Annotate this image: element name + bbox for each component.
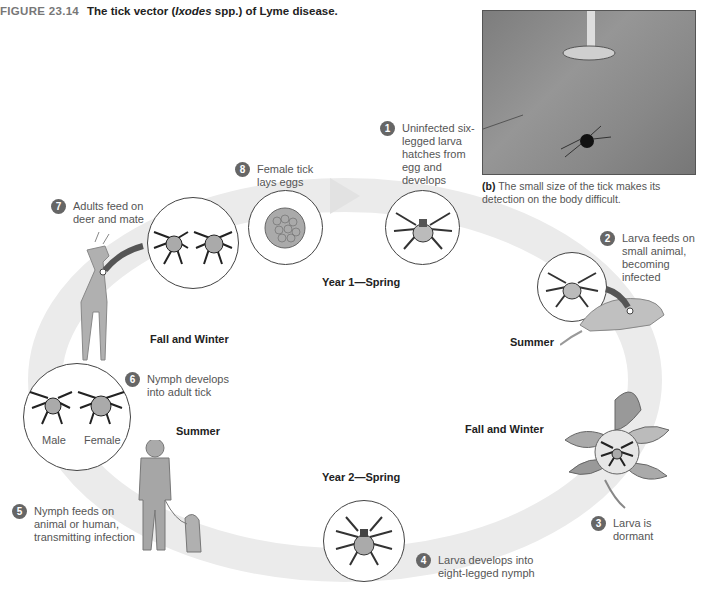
step-8: 8 Female tick lays eggs xyxy=(235,163,335,189)
step-4: 4 Larva develops into eight-legged nymph xyxy=(416,554,556,580)
tick-photo xyxy=(482,10,696,175)
mouse-icon xyxy=(560,275,670,355)
season-fall-winter-left: Fall and Winter xyxy=(150,333,229,345)
step-1: 1 Uninfected six-legged larva hatches fr… xyxy=(380,122,480,187)
eggs-circle xyxy=(248,190,323,265)
female-label: Female xyxy=(84,434,121,446)
male-label: Male xyxy=(42,434,66,446)
step-7: 7 Adults feed on deer and mate xyxy=(51,200,151,226)
season-year1-spring: Year 1—Spring xyxy=(322,276,400,288)
season-fall-winter-right: Fall and Winter xyxy=(465,423,544,435)
season-summer-left: Summer xyxy=(176,425,220,437)
egg-cluster-icon xyxy=(249,191,322,264)
nymph-circle xyxy=(323,500,405,582)
step-badge: 5 xyxy=(12,504,27,519)
step-badge: 8 xyxy=(235,162,250,177)
step-badge: 2 xyxy=(600,231,615,246)
larva-circle xyxy=(385,190,460,265)
step-badge: 4 xyxy=(416,553,431,568)
step-badge: 1 xyxy=(380,121,395,136)
male-female-ticks-icon xyxy=(24,364,130,444)
step-badge: 7 xyxy=(51,199,66,214)
adult-ticks-circle: Male Female xyxy=(23,363,131,471)
six-legged-larva-icon xyxy=(386,191,459,264)
tick-on-skin xyxy=(580,134,594,148)
mating-adult-ticks-icon xyxy=(148,198,238,288)
season-year2-spring: Year 2—Spring xyxy=(322,471,400,483)
eight-legged-nymph-icon xyxy=(324,501,404,581)
person-with-dog-icon xyxy=(135,440,215,560)
step-badge: 3 xyxy=(591,516,606,531)
step-6: 6 Nymph develops into adult tick xyxy=(125,373,235,399)
step-5: 5 Nymph feeds on animal or human, transm… xyxy=(12,505,142,544)
step-3: 3 Larva is dormant xyxy=(591,517,671,543)
leaves-icon xyxy=(545,380,685,510)
photo-caption: (b) The small size of the tick makes its… xyxy=(482,180,697,206)
season-summer-right: Summer xyxy=(510,336,554,348)
adults-feeding-circle xyxy=(147,197,239,289)
deer-icon xyxy=(65,232,145,372)
